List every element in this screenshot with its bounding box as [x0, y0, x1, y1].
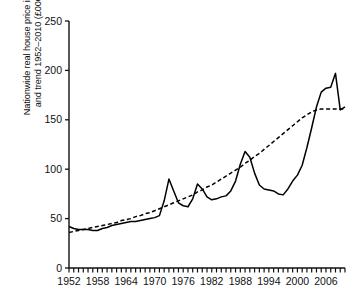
house-price-chart: Nationwide real house price index and tr… — [0, 0, 353, 308]
plot-area: 050100150200250 195219581964197019761982… — [0, 0, 353, 308]
x-tick-label: 1994 — [257, 275, 281, 287]
x-tick-label: 1964 — [114, 275, 138, 287]
x-tick-label: 2000 — [286, 275, 310, 287]
x-tick-label: 1952 — [57, 275, 81, 287]
y-tick-label: 200 — [44, 64, 62, 76]
x-tick-label: 1976 — [172, 275, 196, 287]
x-axis-ticks: 1952195819641970197619821988199420002006 — [57, 268, 345, 287]
x-tick-label: 1988 — [229, 275, 253, 287]
y-tick-label: 0 — [56, 262, 62, 274]
x-tick-label: 1982 — [200, 275, 224, 287]
y-tick-label: 100 — [44, 163, 62, 175]
y-axis-ticks: 050100150200250 — [44, 15, 69, 274]
x-tick-label: 2006 — [314, 275, 338, 287]
y-tick-label: 50 — [50, 212, 62, 224]
x-tick-label: 1958 — [86, 275, 110, 287]
y-tick-label: 250 — [44, 15, 62, 27]
y-tick-label: 150 — [44, 113, 62, 125]
x-tick-label: 1970 — [143, 275, 167, 287]
series-trend-line — [69, 109, 345, 232]
series-actual-line — [69, 73, 345, 230]
